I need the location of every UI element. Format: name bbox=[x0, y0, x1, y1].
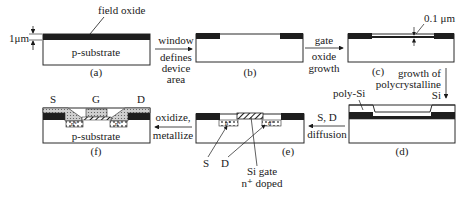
doping-callout: n⁺ doped bbox=[242, 177, 283, 189]
field-oxide-right bbox=[128, 113, 150, 120]
panel-e: n⁺ n⁺ S D Si gate n⁺ doped (e) bbox=[196, 113, 304, 189]
dimension-label: 0.1 μm bbox=[424, 12, 455, 24]
gate-stack bbox=[82, 117, 111, 120]
svg-text:growth: growth bbox=[308, 62, 340, 74]
svg-text:oxide: oxide bbox=[312, 50, 337, 62]
panel-label: (f) bbox=[91, 145, 102, 158]
field-oxide-left bbox=[349, 112, 373, 119]
panel-label: (a) bbox=[90, 66, 103, 79]
svg-text:window: window bbox=[158, 34, 194, 46]
substrate bbox=[349, 105, 455, 143]
svg-text:diffusion: diffusion bbox=[307, 128, 347, 140]
gate-terminal: G bbox=[92, 93, 100, 105]
fabrication-diagram: p-substrate field oxide 1μm (a) window d… bbox=[0, 0, 468, 197]
svg-text:area: area bbox=[167, 73, 185, 85]
dimension-label: 1μm bbox=[9, 32, 29, 44]
panel-label: (d) bbox=[396, 145, 409, 158]
field-oxide-right bbox=[434, 33, 454, 39]
step-polysilicon: growth of polycrystalline Si bbox=[376, 67, 446, 101]
source-terminal: S bbox=[50, 93, 56, 105]
field-oxide-right bbox=[431, 112, 455, 119]
substrate-label: p-substrate bbox=[72, 130, 120, 142]
svg-text:n⁺: n⁺ bbox=[115, 121, 121, 127]
svg-text:n⁺: n⁺ bbox=[225, 120, 231, 126]
panel-label: (b) bbox=[244, 66, 257, 79]
substrate-label: p-substrate bbox=[72, 46, 120, 58]
step-gate-oxide: gate oxide growth bbox=[305, 34, 343, 74]
si-gate-callout: Si gate bbox=[247, 165, 277, 177]
svg-text:Si: Si bbox=[432, 89, 441, 101]
field-oxide-right bbox=[280, 33, 303, 39]
step-oxidize-metallize: oxidize, metallize bbox=[153, 111, 193, 141]
field-oxide-left bbox=[196, 33, 220, 39]
gate-oxide bbox=[373, 116, 431, 119]
field-oxide-left bbox=[348, 33, 372, 39]
gate-metal bbox=[86, 109, 107, 117]
step-sd-diffusion: S, D diffusion bbox=[307, 111, 347, 140]
panel-f: n⁺ n⁺ p-substrate S G D (f) bbox=[43, 93, 150, 158]
svg-text:S, D: S, D bbox=[317, 111, 337, 123]
drain-terminal: D bbox=[137, 93, 145, 105]
drain-callout: D bbox=[221, 157, 229, 169]
polysi-callout: poly-Si bbox=[333, 87, 365, 99]
panel-label: (c) bbox=[372, 65, 385, 78]
gate-oxide bbox=[372, 36, 434, 38]
source-callout: S bbox=[203, 157, 209, 169]
si-gate bbox=[237, 113, 263, 119]
svg-text:n⁺: n⁺ bbox=[71, 121, 77, 127]
svg-text:metallize: metallize bbox=[153, 129, 193, 141]
panel-b: (b) bbox=[196, 33, 303, 79]
callout-line bbox=[90, 17, 104, 34]
field-oxide-right bbox=[281, 113, 304, 120]
step-window: window defines device area bbox=[155, 34, 194, 85]
panel-label: (e) bbox=[282, 145, 295, 158]
panel-a: p-substrate field oxide 1μm (a) bbox=[9, 4, 150, 79]
field-oxide-left bbox=[196, 113, 220, 120]
field-oxide-layer bbox=[43, 34, 150, 40]
svg-text:gate: gate bbox=[315, 34, 333, 46]
field-oxide-callout: field oxide bbox=[98, 4, 145, 16]
svg-text:oxidize,: oxidize, bbox=[155, 111, 190, 123]
svg-text:n⁺: n⁺ bbox=[268, 120, 274, 126]
field-oxide-left bbox=[43, 113, 65, 120]
